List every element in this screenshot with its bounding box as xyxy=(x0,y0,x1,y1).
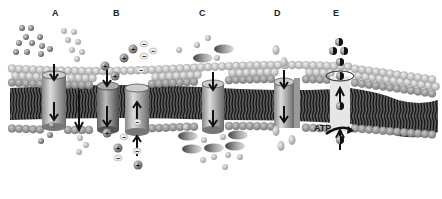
membrane-svg: ++++−−−−+++−−−− xyxy=(0,0,442,199)
svg-text:+: + xyxy=(103,63,107,70)
svg-text:−: − xyxy=(142,41,146,48)
label-c: C xyxy=(199,8,206,18)
svg-text:−: − xyxy=(135,119,139,126)
svg-text:−: − xyxy=(142,53,146,60)
membrane-diagram: ++++−−−−+++−−−− xyxy=(0,0,442,199)
svg-text:+: + xyxy=(136,162,140,169)
svg-text:+: + xyxy=(131,46,135,53)
channel-d xyxy=(274,70,300,128)
label-a: A xyxy=(52,8,59,18)
svg-text:+: + xyxy=(116,145,120,152)
svg-text:−: − xyxy=(151,48,155,55)
label-e: E xyxy=(333,8,339,18)
label-d: D xyxy=(274,8,281,18)
svg-text:−: − xyxy=(122,134,126,141)
label-b: B xyxy=(113,8,120,18)
svg-text:−: − xyxy=(116,155,120,162)
svg-text:+: + xyxy=(113,73,117,80)
svg-text:+: + xyxy=(122,55,126,62)
svg-text:−: − xyxy=(135,148,139,155)
channel-c xyxy=(202,72,224,134)
svg-text:+: + xyxy=(105,130,109,137)
svg-text:−: − xyxy=(139,67,143,74)
atp-label: ATP xyxy=(314,123,331,133)
